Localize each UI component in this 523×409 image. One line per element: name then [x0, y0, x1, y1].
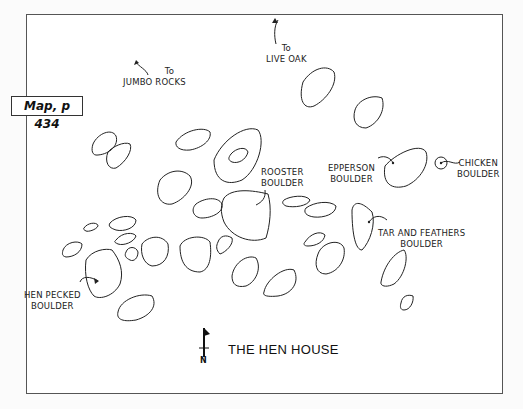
direction-label-jumbo-rocks: To JUMBO ROCKS	[123, 66, 186, 88]
direction-destination: LIVE OAK	[266, 54, 307, 65]
boulder-label-line2: BOULDER	[328, 174, 375, 185]
boulder	[232, 257, 258, 287]
boulder	[381, 250, 406, 286]
boulder	[400, 295, 413, 310]
direction-destination: JUMBO ROCKS	[123, 77, 186, 88]
boulder	[301, 68, 335, 107]
boulder	[125, 248, 138, 261]
boulder	[84, 223, 98, 231]
boulder	[180, 237, 211, 272]
leader-line-epperson	[378, 157, 393, 163]
boulder-label-epperson: EPPERSON BOULDER	[328, 163, 375, 185]
boulder-label-line1: CHICKEN	[457, 158, 500, 169]
leader-line-tar-feathers	[369, 216, 387, 222]
boulder	[158, 171, 192, 204]
direction-prefix: To	[266, 43, 307, 54]
boulder	[193, 199, 222, 218]
boulder	[92, 132, 117, 155]
boulder-label-hen-pecked: HEN PECKED BOULDER	[24, 290, 81, 312]
north-arrow-icon	[199, 328, 210, 357]
boulder	[229, 148, 248, 162]
boulder-label-line2: BOULDER	[261, 178, 304, 189]
boulder	[352, 203, 373, 250]
direction-label-live-oak: To LIVE OAK	[266, 43, 307, 65]
boulder	[107, 143, 131, 168]
boulder-label-chicken: CHICKEN BOULDER	[457, 158, 500, 180]
map-title: THE HEN HOUSE	[228, 342, 339, 357]
boulder	[176, 129, 210, 150]
boulder	[217, 236, 233, 254]
boulder	[304, 233, 325, 246]
boulder-label-line2: BOULDER	[457, 169, 500, 180]
map-reference-badge: Map, p 434	[11, 96, 83, 116]
boulder-label-tar-and-feathers: TAR AND FEATHERS BOULDER	[378, 228, 465, 250]
arrowhead	[94, 278, 99, 284]
boulder	[316, 242, 344, 274]
boulder	[109, 216, 136, 230]
leader-line-live-oak	[275, 20, 278, 44]
boulder	[62, 242, 82, 257]
north-label: N	[200, 356, 207, 365]
boulder	[141, 237, 168, 266]
boulder	[384, 148, 426, 187]
boulder-label-line2: BOULDER	[24, 301, 81, 312]
direction-prefix: To	[123, 66, 186, 77]
boulder	[305, 202, 336, 217]
boulder-label-line1: TAR AND FEATHERS	[378, 228, 465, 239]
boulder-label-rooster: ROOSTER BOULDER	[261, 167, 304, 189]
boulder	[214, 129, 261, 183]
boulder-label-line1: HEN PECKED	[24, 290, 81, 301]
boulder	[221, 191, 270, 241]
boulder	[115, 233, 136, 244]
boulder-label-line1: EPPERSON	[328, 163, 375, 174]
boulder-label-line2: BOULDER	[378, 239, 465, 250]
boulder	[264, 269, 296, 296]
boulder	[85, 249, 121, 297]
boulder-label-line1: ROOSTER	[261, 167, 304, 178]
boulder	[283, 196, 310, 207]
boulder	[354, 97, 383, 128]
boulder	[118, 295, 154, 321]
